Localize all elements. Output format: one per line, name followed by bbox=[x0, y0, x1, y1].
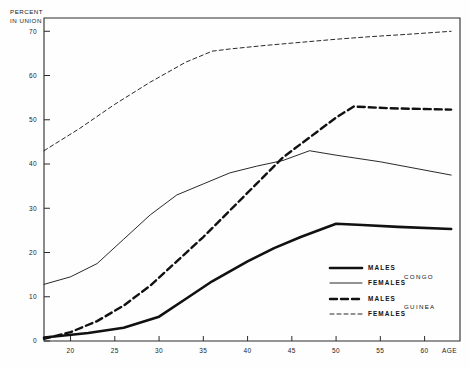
series-group bbox=[44, 31, 451, 339]
x-tick-label: 40 bbox=[244, 347, 252, 354]
line-chart: PERCENT IN UNION AGE 010203040506070 202… bbox=[0, 0, 470, 368]
y-tick-label: 60 bbox=[29, 72, 37, 79]
legend-label: FEMALES bbox=[368, 310, 406, 317]
series-line-guinea-males bbox=[44, 106, 451, 338]
x-tick-label: 30 bbox=[155, 347, 163, 354]
y-tick-label: 0 bbox=[33, 337, 37, 344]
x-tick-label: 60 bbox=[421, 347, 429, 354]
chart-container: PERCENT IN UNION AGE 010203040506070 202… bbox=[0, 0, 470, 368]
y-tick-label: 10 bbox=[29, 293, 37, 300]
x-tick-label: 50 bbox=[332, 347, 340, 354]
series-line-guinea-females bbox=[44, 31, 451, 150]
x-axis-ticks: 202530354045505560 bbox=[67, 336, 429, 354]
y-axis-label-line2: IN UNION bbox=[10, 17, 42, 24]
x-tick-label: 25 bbox=[111, 347, 119, 354]
legend-label: MALES bbox=[368, 295, 396, 302]
x-tick-label: 45 bbox=[288, 347, 296, 354]
plot-frame bbox=[44, 18, 460, 341]
chart-legend: CONGO GUINEA MALESFEMALESMALESFEMALES bbox=[330, 264, 436, 317]
x-tick-label: 20 bbox=[67, 347, 75, 354]
x-tick-label: 35 bbox=[199, 347, 207, 354]
frame-border bbox=[44, 18, 460, 341]
y-tick-label: 20 bbox=[29, 249, 37, 256]
legend-group-guinea: GUINEA bbox=[404, 303, 436, 310]
x-axis-label: AGE bbox=[442, 347, 457, 354]
legend-group-congo: CONGO bbox=[404, 273, 434, 280]
y-tick-label: 50 bbox=[29, 116, 37, 123]
y-tick-label: 70 bbox=[29, 28, 37, 35]
y-axis-ticks: 010203040506070 bbox=[29, 28, 50, 345]
y-tick-label: 40 bbox=[29, 160, 37, 167]
y-axis-label-line1: PERCENT bbox=[10, 8, 43, 15]
y-tick-label: 30 bbox=[29, 205, 37, 212]
legend-label: MALES bbox=[368, 264, 396, 271]
legend-label: FEMALES bbox=[368, 279, 406, 286]
x-tick-label: 55 bbox=[376, 347, 384, 354]
